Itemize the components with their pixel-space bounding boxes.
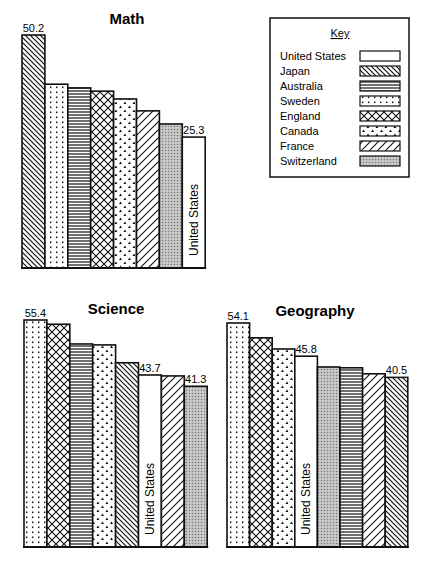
- legend-swatch-japan: [360, 66, 400, 76]
- bar-switzerland: [159, 124, 182, 268]
- bar-france: [161, 376, 184, 547]
- bar-england: [47, 324, 70, 547]
- bar-inline-label: United States: [143, 463, 157, 535]
- chart-title: Math: [110, 10, 145, 27]
- legend-label: Australia: [280, 80, 324, 92]
- value-label: 50.2: [23, 22, 44, 34]
- chart-science: Science55.443.7United States41.3: [23, 300, 208, 547]
- legend-swatch-sweden: [360, 96, 400, 106]
- bar-sweden: [24, 320, 47, 547]
- legend-swatch-canada: [360, 126, 400, 136]
- legend-label: United States: [280, 50, 347, 62]
- value-label: 43.7: [139, 362, 160, 374]
- bar-canada: [93, 345, 116, 547]
- bar-inline-label: United States: [187, 184, 201, 256]
- value-label: 45.8: [295, 343, 316, 355]
- bar-sweden: [227, 323, 250, 547]
- bar-switzerland: [317, 367, 340, 547]
- bar-sweden: [45, 84, 68, 268]
- legend-label: Japan: [280, 65, 310, 77]
- bar-australia: [340, 368, 363, 547]
- bar-canada: [114, 99, 137, 268]
- chart-math: Math50.225.3United States: [21, 10, 206, 268]
- value-label: 54.1: [228, 310, 249, 322]
- chart-geography: Geography54.145.8United States40.5: [226, 302, 409, 547]
- legend-label: England: [280, 110, 320, 122]
- chart-title: Geography: [275, 302, 355, 319]
- chart-title: Science: [88, 300, 145, 317]
- bar-australia: [68, 88, 91, 268]
- legend-label: Sweden: [280, 95, 320, 107]
- legend-label: France: [280, 140, 314, 152]
- bar-inline-label: United States: [299, 463, 313, 535]
- bar-japan: [22, 35, 45, 268]
- legend-swatch-england: [360, 111, 400, 121]
- legend-swatch-united-states: [360, 51, 400, 61]
- chart-figure: Math50.225.3United StatesScience55.443.7…: [0, 0, 432, 567]
- legend-swatch-france: [360, 141, 400, 151]
- legend-key: KeyUnited StatesJapanAustraliaSwedenEngl…: [270, 18, 409, 177]
- value-label: 41.3: [185, 373, 206, 385]
- value-label: 55.4: [25, 307, 46, 319]
- bar-france: [363, 374, 386, 547]
- legend-swatch-switzerland: [360, 156, 400, 166]
- bar-australia: [70, 344, 93, 547]
- bar-switzerland: [184, 386, 207, 547]
- value-label: 25.3: [183, 124, 204, 136]
- legend-label: Switzerland: [280, 155, 337, 167]
- legend-label: Canada: [280, 125, 319, 137]
- bar-canada: [272, 349, 295, 547]
- legend-title: Key: [331, 27, 350, 39]
- legend-swatch-australia: [360, 81, 400, 91]
- bar-england: [91, 91, 114, 268]
- bar-england: [250, 338, 273, 547]
- bar-japan: [116, 363, 139, 547]
- bar-france: [137, 111, 160, 268]
- bar-japan: [385, 377, 408, 547]
- value-label: 40.5: [386, 364, 407, 376]
